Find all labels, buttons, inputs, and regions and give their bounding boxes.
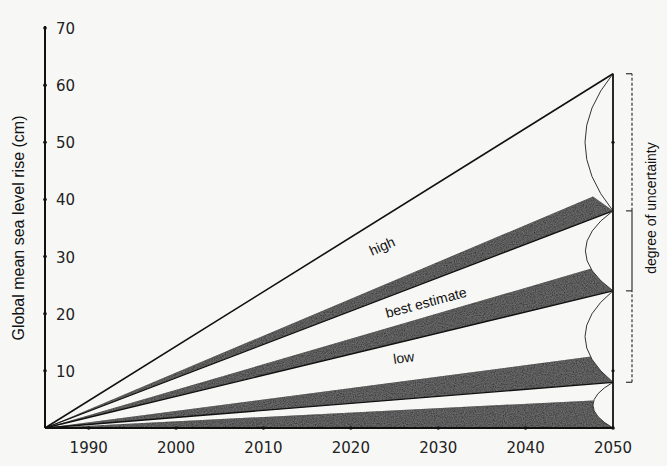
x-tick-label: 2030 xyxy=(419,439,457,457)
y-tick-label: 70 xyxy=(56,20,75,38)
shaded-bands xyxy=(45,197,613,429)
y-tick-label: 50 xyxy=(56,134,75,152)
y-tick-label: 20 xyxy=(56,306,75,324)
labels: Global mean sea level rise (cm) high bes… xyxy=(10,116,659,367)
y-tick-label: 40 xyxy=(56,191,75,209)
x-tick xyxy=(174,426,178,430)
label-low: low xyxy=(392,348,416,367)
y-tick xyxy=(43,140,47,144)
label-high: high xyxy=(367,233,398,258)
x-tick xyxy=(524,426,528,430)
y-tick-label: 60 xyxy=(56,77,75,95)
y-tick-label: 10 xyxy=(56,363,75,381)
y-tick xyxy=(43,255,47,259)
y-tick xyxy=(43,369,47,373)
x-tick-label: 1990 xyxy=(70,439,108,457)
y-axis-title: Global mean sea level rise (cm) xyxy=(10,116,27,341)
x-tick xyxy=(87,426,91,430)
x-tick xyxy=(349,426,353,430)
y-tick xyxy=(43,198,47,202)
marker-dot xyxy=(611,369,614,372)
y-tick xyxy=(43,26,47,30)
x-tick xyxy=(262,426,266,430)
x-tick xyxy=(436,426,440,430)
marker-dot xyxy=(611,141,614,144)
x-tick xyxy=(611,426,615,430)
y-tick xyxy=(43,83,47,87)
x-tick-label: 2000 xyxy=(157,439,195,457)
x-tick-label: 2010 xyxy=(244,439,282,457)
sea-level-chart: 1020304050607019902000201020202030204020… xyxy=(0,0,667,466)
x-tick-label: 2020 xyxy=(332,439,370,457)
x-tick-label: 2050 xyxy=(594,439,632,457)
y-tick xyxy=(43,312,47,316)
label-degree-of-uncertainty: degree of uncertainty xyxy=(643,142,659,274)
y-tick-label: 30 xyxy=(56,249,75,267)
x-tick-label: 2040 xyxy=(507,439,545,457)
